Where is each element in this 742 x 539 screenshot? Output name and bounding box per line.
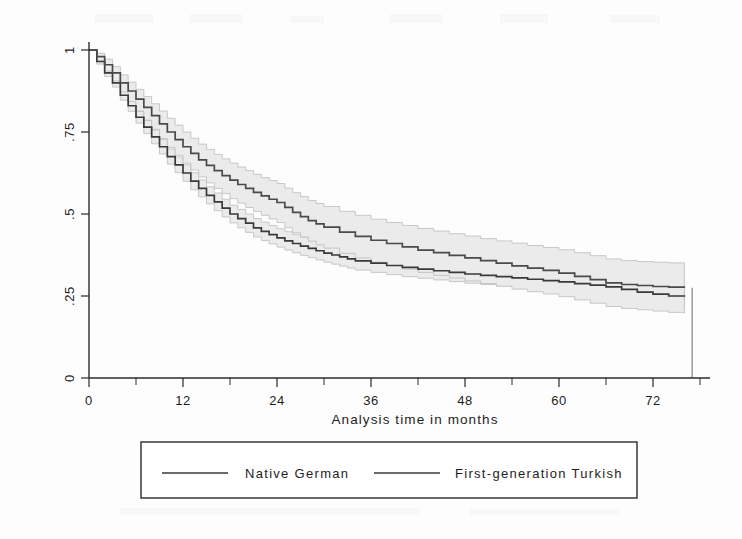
confidence-bands (89, 50, 684, 313)
x-tick-label: 60 (551, 393, 567, 408)
legend-label-native-german: Native German (245, 466, 349, 481)
x-tick-label: 24 (269, 393, 285, 408)
y-tick-label: .75 (62, 122, 77, 142)
x-axis-title: Analysis time in months (331, 412, 498, 427)
y-axis-ticks (81, 50, 89, 378)
legend-label-first-generation-turkish: First-generation Turkish (455, 466, 623, 481)
y-axis-tick-labels: 0.25.5.751 (62, 46, 77, 382)
kaplan-meier-chart: 0.25.5.751 0122436486072 Analysis time i… (0, 0, 742, 539)
x-tick-label: 72 (645, 393, 661, 408)
y-tick-label: .25 (62, 286, 77, 306)
x-axis-ticks (89, 378, 700, 387)
x-tick-label: 36 (363, 393, 379, 408)
x-axis-tick-labels: 0122436486072 (85, 393, 661, 408)
x-tick-label: 12 (175, 393, 191, 408)
figure-container: 0.25.5.751 0122436486072 Analysis time i… (0, 0, 742, 539)
y-tick-label: .5 (62, 208, 77, 220)
x-tick-label: 0 (85, 393, 93, 408)
y-tick-label: 1 (62, 46, 77, 54)
legend: Native German First-generation Turkish (141, 442, 637, 498)
x-tick-label: 48 (457, 393, 473, 408)
y-tick-label: 0 (62, 374, 77, 382)
